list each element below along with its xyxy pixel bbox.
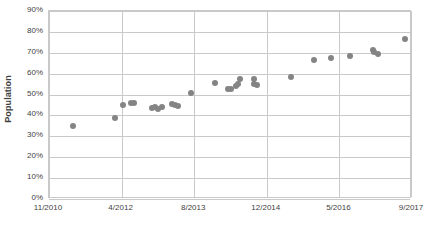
x-axis-tick-labels: 11/20104/20128/201312/20145/20169/2017 [0,203,429,223]
y-axis-title: Population [0,0,16,198]
x-tick-label: 12/2014 [251,203,280,213]
horizontal-gridline [49,199,410,200]
horizontal-gridline [49,11,410,12]
y-tick-label: 70% [27,48,43,56]
horizontal-gridline [49,95,410,96]
data-point [212,80,218,86]
data-point [254,82,260,88]
y-tick-label: 90% [27,6,43,14]
y-tick-label: 60% [27,69,43,77]
data-point [235,81,241,87]
data-point [237,76,243,82]
x-tick-label: 8/2013 [181,203,205,213]
horizontal-gridline [49,157,410,158]
data-point [175,103,181,109]
data-point [375,51,381,57]
data-point [120,102,126,108]
y-axis-tick-labels: 90%80%70%60%50%40%30%20%10%0% [16,0,46,208]
data-point [159,104,165,110]
horizontal-gridline [49,74,410,75]
data-point [347,53,353,59]
horizontal-gridline [49,136,410,137]
horizontal-gridline [49,53,410,54]
vertical-gridline [411,11,412,197]
x-tick-label: 11/2010 [34,203,62,213]
vertical-gridline [339,11,340,197]
data-point [288,74,294,80]
y-tick-label: 40% [27,110,43,118]
scatter-chart: Population 90%80%70%60%50%40%30%20%10%0%… [0,0,429,232]
y-tick-label: 50% [27,90,43,98]
vertical-gridline [49,11,50,197]
data-point [131,100,137,106]
horizontal-gridline [49,32,410,33]
y-tick-label: 20% [27,152,43,160]
y-tick-label: 0% [31,194,43,202]
data-point [328,55,334,61]
x-tick-label: 5/2016 [326,203,350,213]
vertical-gridline [194,11,195,197]
vertical-gridline [267,11,268,197]
data-point [402,36,408,42]
data-point [112,115,118,121]
y-tick-label: 80% [27,27,43,35]
y-tick-label: 30% [27,131,43,139]
horizontal-gridline [49,178,410,179]
data-point [311,57,317,63]
y-tick-label: 10% [27,173,43,181]
horizontal-gridline [49,115,410,116]
data-point [188,90,194,96]
x-tick-label: 4/2012 [108,203,132,213]
y-axis-title-label: Population [3,75,13,123]
x-tick-label: 9/2017 [399,203,423,213]
data-point [70,123,76,129]
plot-area [48,10,411,198]
